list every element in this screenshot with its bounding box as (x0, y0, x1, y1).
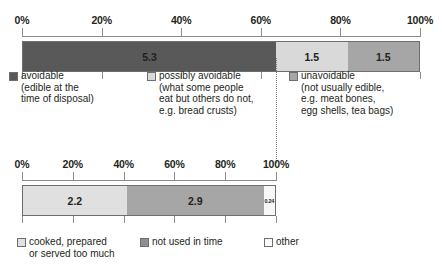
legend-label-possibly-avoidable-title: possibly avoidable (159, 70, 241, 81)
bottom-chart-axis-line (22, 180, 276, 181)
bottom-axis-tick-label-40: 40% (113, 158, 133, 170)
bottom-axis-tick-label-0: 0% (15, 158, 30, 170)
legend-label-avoidable-detail: (edible at the time of disposal) (21, 82, 94, 105)
bottom-chart-lower-ticks (22, 216, 276, 223)
segment-value-not-used-in-time: 2.9 (188, 195, 203, 207)
bottom-tick-mark-below-60 (174, 216, 175, 223)
bottom-tick-mark-below-40 (124, 216, 125, 223)
bottom-tick-mark-below-20 (73, 216, 74, 223)
legend-swatch-other (264, 238, 273, 247)
segment-value-unavoidable: 1.5 (376, 51, 391, 63)
top-chart-legend: avoidable(edible at the time of disposal… (0, 70, 442, 132)
segment-other: 0.24 (264, 186, 275, 215)
segment-value-avoidable: 5.3 (142, 51, 157, 63)
segment-possibly-avoidable: 1.5 (276, 42, 347, 71)
bottom-chart-bar: 2.2 2.9 0.24 (22, 185, 276, 216)
legend-item-avoidable: avoidable(edible at the time of disposal… (9, 70, 139, 105)
legend-label-other: other (276, 236, 299, 248)
bottom-axis-tick-label-100: 100% (263, 158, 289, 170)
bottom-axis-tick-label-20: 20% (63, 158, 83, 170)
bottom-tick-mark-100 (276, 172, 277, 181)
legend-item-unavoidable: unavoidable(not usually edible, e.g. mea… (289, 70, 439, 116)
axis-tick-label-40: 40% (171, 14, 191, 26)
axis-tick-label-100: 100% (407, 14, 433, 26)
segment-value-possibly-avoidable: 1.5 (304, 51, 319, 63)
segment-value-other: 0.24 (264, 198, 274, 204)
legend-label-possibly-avoidable: possibly avoidable(what some people eat … (159, 70, 254, 116)
legend-item-not-used-in-time: not used in time (140, 236, 250, 248)
legend-label-avoidable: avoidable(edible at the time of disposal… (21, 70, 94, 105)
legend-label-unavoidable-detail: (not usually edible, e.g. meat bones, eg… (301, 82, 393, 116)
legend-item-cooked-prepared: cooked, prepared or served too much (17, 236, 135, 259)
bottom-tick-mark-below-0 (22, 216, 23, 223)
legend-swatch-not-used-in-time (140, 238, 149, 247)
tick-mark-100 (420, 28, 421, 37)
top-chart-axis-labels: 0% 20% 40% 60% 80% 100% (22, 14, 420, 28)
legend-label-avoidable-title: avoidable (21, 70, 64, 81)
legend-label-cooked-prepared: cooked, prepared or served too much (29, 236, 115, 259)
top-chart-bar: 5.3 1.5 1.5 (22, 41, 420, 72)
legend-label-unavoidable-title: unavoidable (301, 70, 355, 81)
bottom-tick-mark-below-80 (225, 216, 226, 223)
segment-cooked-prepared: 2.2 (23, 186, 127, 215)
legend-label-not-used-in-time: not used in time (152, 236, 223, 248)
legend-swatch-unavoidable (289, 72, 298, 81)
legend-item-possibly-avoidable: possibly avoidable(what some people eat … (147, 70, 275, 116)
axis-tick-label-80: 80% (330, 14, 350, 26)
bottom-axis-tick-label-60: 60% (164, 158, 184, 170)
legend-item-other: other (264, 236, 334, 248)
bottom-tick-mark-below-100 (276, 216, 277, 223)
axis-tick-label-0: 0% (15, 14, 30, 26)
legend-swatch-cooked-prepared (17, 238, 26, 247)
top-chart-axis-line (22, 36, 420, 37)
legend-swatch-avoidable (9, 72, 18, 81)
axis-tick-label-60: 60% (251, 14, 271, 26)
axis-tick-label-20: 20% (91, 14, 111, 26)
segment-avoidable: 5.3 (23, 42, 276, 71)
legend-label-possibly-avoidable-detail: (what some people eat but others do not,… (159, 82, 254, 116)
legend-swatch-possibly-avoidable (147, 72, 156, 81)
segment-value-cooked-prepared: 2.2 (68, 195, 83, 207)
segment-not-used-in-time: 2.9 (127, 186, 264, 215)
bottom-axis-tick-label-80: 80% (215, 158, 235, 170)
segment-unavoidable: 1.5 (348, 42, 419, 71)
bottom-chart-axis-labels: 0% 20% 40% 60% 80% 100% (22, 158, 276, 172)
legend-label-unavoidable: unavoidable(not usually edible, e.g. mea… (301, 70, 393, 116)
bottom-chart-legend: cooked, prepared or served too much not … (0, 236, 442, 266)
